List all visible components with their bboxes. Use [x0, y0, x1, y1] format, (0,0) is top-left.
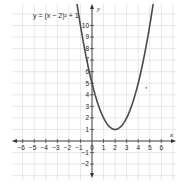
svg-text:1: 1 — [85, 126, 89, 133]
equation-label: y = (x − 2)² + 1 — [33, 12, 79, 20]
svg-text:9: 9 — [85, 33, 89, 40]
svg-text:−2: −2 — [82, 160, 90, 167]
svg-text:2: 2 — [113, 144, 117, 151]
plotted-points — [145, 87, 147, 89]
svg-text:−2: −2 — [64, 144, 72, 151]
svg-text:0: 0 — [90, 144, 94, 151]
svg-text:5: 5 — [148, 144, 152, 151]
svg-text:8: 8 — [85, 45, 89, 52]
parabola-graph: −6−5−4−3−2−10123456−2−112345678910 y = (… — [0, 0, 182, 189]
y-axis-label: y — [96, 5, 101, 13]
svg-text:3: 3 — [125, 144, 129, 151]
svg-text:−3: −3 — [52, 144, 60, 151]
svg-text:10: 10 — [82, 22, 90, 29]
svg-text:2: 2 — [85, 114, 89, 121]
svg-text:5: 5 — [85, 80, 89, 87]
svg-text:−5: −5 — [29, 144, 37, 151]
svg-text:−1: −1 — [82, 149, 90, 156]
svg-text:4: 4 — [136, 144, 140, 151]
svg-text:−6: −6 — [17, 144, 25, 151]
x-axis-label: x — [169, 131, 174, 139]
svg-text:−4: −4 — [41, 144, 49, 151]
svg-text:4: 4 — [85, 91, 89, 98]
svg-text:3: 3 — [85, 103, 89, 110]
svg-text:6: 6 — [159, 144, 163, 151]
svg-text:1: 1 — [102, 144, 106, 151]
